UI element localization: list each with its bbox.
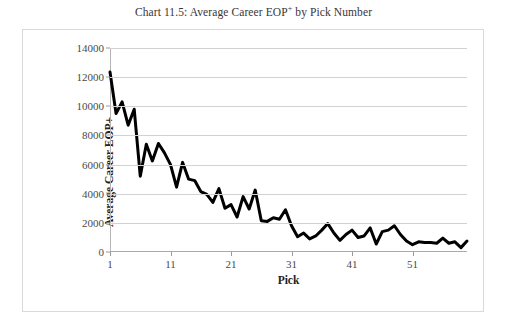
- x-tick-mark: [352, 252, 353, 256]
- y-tick-label: 2000: [82, 217, 104, 229]
- x-tick-label: 1: [107, 258, 113, 270]
- y-tick-mark: [106, 164, 110, 165]
- x-tick-label: 21: [226, 258, 237, 270]
- y-tick-mark: [106, 106, 110, 107]
- gridline-y: [110, 135, 467, 136]
- y-tick-mark: [106, 193, 110, 194]
- x-tick-label: 51: [407, 258, 418, 270]
- y-tick-label: 4000: [82, 188, 104, 200]
- x-axis-title: Pick: [110, 274, 467, 286]
- gridline-y: [110, 106, 467, 107]
- x-tick-label: 11: [165, 258, 176, 270]
- x-tick-mark: [110, 252, 111, 256]
- y-tick-mark: [106, 48, 110, 49]
- y-tick-label: 6000: [82, 159, 104, 171]
- series-line-average-career-eop: [110, 48, 467, 252]
- x-tick-mark: [231, 252, 232, 256]
- chart-title: Chart 11.5: Average Career EOP+ by Pick …: [0, 6, 507, 18]
- x-tick-mark: [413, 252, 414, 256]
- y-tick-label: 0: [99, 246, 105, 258]
- x-tick-label: 41: [347, 258, 358, 270]
- gridline-y: [110, 77, 467, 78]
- gridline-y: [110, 223, 467, 224]
- plot-wrapper: Average Career EOP+ Pick 140001200010000…: [23, 30, 485, 313]
- x-tick-mark: [171, 252, 172, 256]
- y-tick-mark: [106, 135, 110, 136]
- y-tick-label: 14000: [77, 42, 105, 54]
- chart-title-tail: by Pick Number: [292, 6, 372, 18]
- y-tick-mark: [106, 222, 110, 223]
- chart-title-main: Chart 11.5: Average Career EOP: [135, 6, 288, 18]
- x-tick-label: 31: [286, 258, 297, 270]
- y-tick-mark: [106, 77, 110, 78]
- plot-area: 1400012000100008000600040002000011121314…: [110, 48, 467, 252]
- y-tick-label: 12000: [77, 71, 105, 83]
- chart-page: Chart 11.5: Average Career EOP+ by Pick …: [0, 0, 507, 333]
- y-tick-label: 8000: [82, 129, 104, 141]
- gridline-y: [110, 48, 467, 49]
- y-tick-label: 10000: [77, 100, 105, 112]
- figure-frame: Average Career EOP+ Pick 140001200010000…: [22, 29, 484, 312]
- gridline-y: [110, 194, 467, 195]
- x-tick-mark: [292, 252, 293, 256]
- gridline-y: [110, 165, 467, 166]
